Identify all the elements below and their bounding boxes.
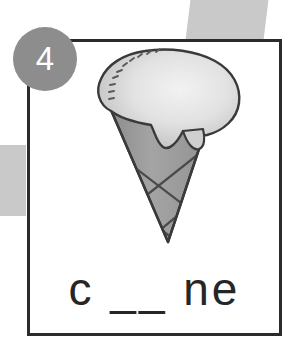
decorative-gray-bar-top-right bbox=[185, 0, 269, 44]
item-number-label: 4 bbox=[36, 42, 54, 77]
decorative-gray-bar-left bbox=[0, 145, 26, 216]
worksheet-screenshot: 4 c __ ne bbox=[0, 0, 291, 351]
prompt-word-text[interactable]: c __ ne bbox=[69, 266, 241, 312]
prompt-word-row[interactable]: c __ ne bbox=[27, 258, 282, 320]
item-number-badge: 4 bbox=[13, 27, 77, 91]
